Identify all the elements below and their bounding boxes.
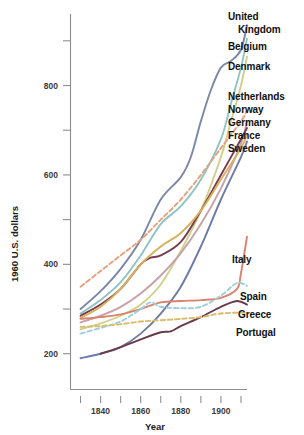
x-tick-label: 1860 xyxy=(131,406,150,416)
series-label-italy: Italy xyxy=(232,254,252,265)
y-tick-label: 800 xyxy=(44,81,58,91)
series-label-netherlands: Netherlands xyxy=(228,91,285,102)
y-tick-label: 400 xyxy=(44,259,58,269)
series-label-spain: Spain xyxy=(240,291,267,302)
series-label-portugal: Portugal xyxy=(236,327,276,338)
x-tick-label: 1900 xyxy=(211,406,230,416)
series-label-united-kingdom-line1: United xyxy=(228,11,259,22)
x-tick-label: 1840 xyxy=(91,406,110,416)
series-lines-group xyxy=(81,25,247,358)
x-tick-labels: 1840186018801900 xyxy=(91,406,231,416)
x-tick-label: 1880 xyxy=(171,406,190,416)
x-axis-title: Year xyxy=(145,421,165,432)
series-label-belgium: Belgium xyxy=(228,41,267,52)
y-axis-title: 1960 U.S. dollars xyxy=(9,206,20,282)
series-label-sweden: Sweden xyxy=(228,143,265,154)
y-tick-label: 600 xyxy=(44,170,58,180)
series-label-greece: Greece xyxy=(238,309,272,320)
series-label-norway: Norway xyxy=(228,104,264,115)
y-tick-labels: 200400600800 xyxy=(44,81,58,359)
chart-root: 200400600800 1840186018801900 1960 U.S. … xyxy=(0,0,304,435)
series-label-denmark: Denmark xyxy=(228,61,271,72)
y-tick-label: 200 xyxy=(44,349,58,359)
line-chart: 200400600800 1840186018801900 1960 U.S. … xyxy=(0,0,304,435)
series-label-germany: Germany xyxy=(228,117,271,128)
series-line-denmark xyxy=(81,56,247,329)
x-tick-marks xyxy=(81,396,241,403)
series-label-united-kingdom-line2: Kingdom xyxy=(238,24,281,35)
y-tick-marks xyxy=(63,41,71,354)
series-label-france: France xyxy=(228,130,261,141)
series-line-france xyxy=(81,135,247,318)
